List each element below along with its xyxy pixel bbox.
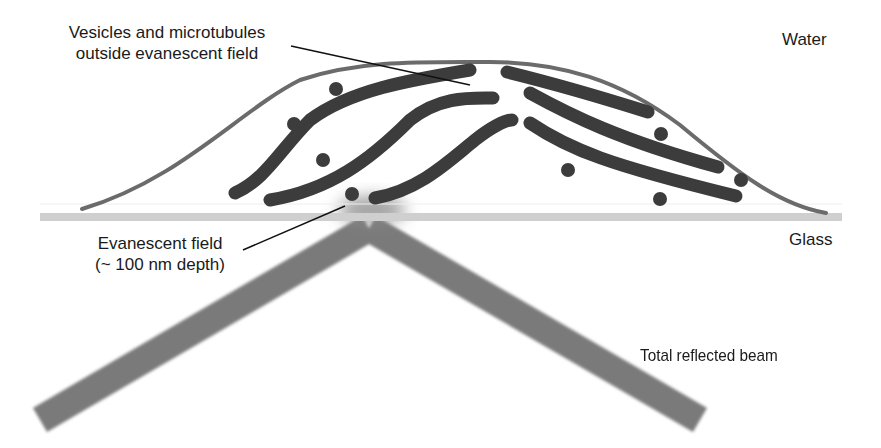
vesicle bbox=[734, 173, 748, 187]
label-vesicles-line2: outside evanescent field bbox=[47, 43, 287, 64]
reflected-beam bbox=[369, 228, 700, 420]
vesicle bbox=[653, 192, 667, 206]
label-vesicles: Vesicles and microtubules outside evanes… bbox=[47, 22, 287, 64]
vesicle bbox=[329, 82, 343, 96]
label-glass: Glass bbox=[789, 229, 832, 250]
label-reflected-beam: Total reflected beam bbox=[640, 345, 778, 366]
label-water: Water bbox=[782, 29, 827, 50]
vesicle bbox=[345, 187, 359, 201]
label-evanescent-line2: (~ 100 nm depth) bbox=[80, 254, 240, 275]
glass-coverslip bbox=[40, 213, 842, 221]
leader-line-vesicles bbox=[291, 46, 470, 85]
tirf-diagram bbox=[0, 0, 881, 448]
vesicle bbox=[316, 153, 330, 167]
label-evanescent-line1: Evanescent field bbox=[80, 233, 240, 254]
label-vesicles-line1: Vesicles and microtubules bbox=[47, 22, 287, 43]
vesicle bbox=[287, 117, 301, 131]
vesicle bbox=[561, 163, 575, 177]
label-evanescent-field: Evanescent field (~ 100 nm depth) bbox=[80, 233, 240, 275]
vesicle bbox=[654, 127, 668, 141]
